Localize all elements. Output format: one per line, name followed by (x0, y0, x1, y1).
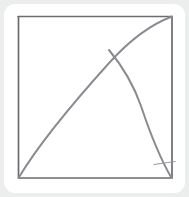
square-frame (18, 17, 172, 179)
descending-curve (109, 50, 172, 178)
rising-arc (19, 17, 173, 179)
geometric-figure (0, 0, 189, 197)
